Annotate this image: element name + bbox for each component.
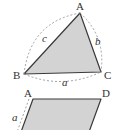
parallelogram-shape — [21, 99, 101, 130]
side-label-b: b — [95, 35, 101, 47]
side-label-c: c — [42, 32, 47, 44]
vertex-label-b: B — [13, 69, 20, 81]
triangle-shape — [24, 13, 101, 74]
side-label-a: a — [12, 111, 18, 123]
parallelogram-abcd: A D a — [12, 87, 110, 130]
geometry-figure: A B C c b a A D a — [0, 0, 118, 130]
triangle-abc: A B C c b a — [13, 0, 111, 88]
side-label-a: a — [62, 76, 68, 88]
vertex-label-a: A — [76, 0, 84, 12]
vertex-label-a: A — [24, 87, 32, 99]
vertex-label-c: C — [104, 69, 111, 81]
vertex-label-d: D — [102, 87, 110, 99]
